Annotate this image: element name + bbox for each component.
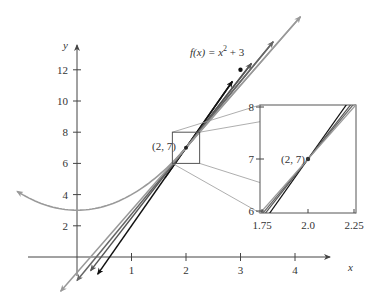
y-tick-label: 8 <box>63 126 69 138</box>
y-axis-label: y <box>62 39 68 51</box>
y-tick-label: 2 <box>63 220 69 232</box>
inset-x-tick-label: 2.25 <box>344 219 364 231</box>
point-2-7 <box>184 146 188 150</box>
inset-panel: 1.752.02.25 678 (2, 7) <box>234 55 381 263</box>
x-tick-label: 2 <box>183 264 189 276</box>
x-ticks: 1234 <box>129 253 299 276</box>
inset-y-tick-label: 6 <box>249 205 255 217</box>
x-tick-label: 3 <box>238 264 244 276</box>
function-label-suffix: + 3 <box>227 46 245 58</box>
inset-point-2-7 <box>306 157 310 161</box>
inset-y-tick-label: 7 <box>249 153 255 165</box>
inset-x-tick-label: 1.75 <box>252 219 272 231</box>
y-tick-label: 12 <box>57 64 68 76</box>
inset-y-tick-label: 8 <box>249 101 255 113</box>
x-tick-label: 1 <box>129 264 135 276</box>
point-3-12 <box>238 68 242 72</box>
x-axis-label: x <box>347 261 353 273</box>
inset-point-label: (2, 7) <box>281 153 305 166</box>
y-tick-label: 6 <box>63 157 69 169</box>
function-label-prefix: f(x) = x <box>190 46 223 59</box>
point-label: (2, 7) <box>152 140 176 153</box>
y-tick-label: 4 <box>63 189 69 201</box>
y-tick-label: 10 <box>57 95 69 107</box>
function-label: f(x) = x2 + 3 <box>190 44 245 59</box>
chart: x y 1234 24681012 f(x) = x2 + 3 (2, 7) 1… <box>0 0 382 305</box>
connector-bottom-left <box>172 163 260 213</box>
inset-x-tick-label: 2.0 <box>301 219 315 231</box>
x-tick-label: 4 <box>292 264 298 276</box>
